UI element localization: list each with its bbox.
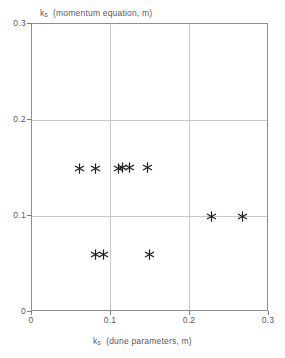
x-axis-tick-label: 0.3: [253, 315, 283, 325]
y-axis-tick-label: 0.3: [13, 18, 26, 28]
scatter-plot-figure: ks (momentum equation, m) 00.10.20.300.1…: [0, 0, 285, 358]
gridline-y-0.2: [32, 120, 267, 121]
x-axis-label-text: (dune parameters, m): [106, 336, 192, 346]
x-axis-tick-label: 0.1: [95, 315, 125, 325]
y-axis-tick-label: 0.1: [13, 210, 26, 220]
gridline-x-0.2: [189, 24, 190, 310]
plot-area: [31, 23, 268, 311]
y-axis-tick: [27, 119, 31, 120]
x-axis-label-subscript: s: [98, 339, 101, 346]
data-point: [142, 162, 153, 173]
y-axis-label-subscript: s: [44, 11, 47, 18]
data-point: [90, 163, 101, 174]
data-point: [144, 249, 155, 260]
y-axis-label: ks (momentum equation, m): [40, 8, 152, 18]
y-axis-tick: [27, 215, 31, 216]
data-point: [237, 211, 248, 222]
y-axis-label-text: (momentum equation, m): [53, 8, 152, 18]
x-axis-tick-label: 0.2: [174, 315, 204, 325]
data-point: [98, 249, 109, 260]
gridline-y-0.1: [32, 216, 267, 217]
data-point: [206, 211, 217, 222]
y-axis-tick-label: 0.2: [13, 114, 26, 124]
y-axis-tick: [27, 23, 31, 24]
data-point: [74, 163, 85, 174]
x-axis-label: ks (dune parameters, m): [0, 336, 285, 346]
data-point: [124, 162, 135, 173]
gridline-x-0.1: [110, 24, 111, 310]
x-axis-tick-label: 0: [16, 315, 46, 325]
